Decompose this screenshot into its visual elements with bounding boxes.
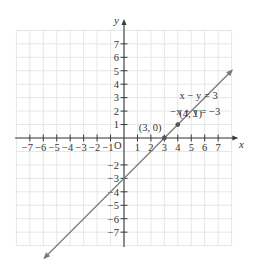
point-label: (3, 0) xyxy=(139,122,162,134)
x-tick-label: 3 xyxy=(162,142,167,153)
origin-label: O xyxy=(114,140,122,151)
equation-2-label: −x + y = −3 xyxy=(170,106,220,117)
y-tick-label: −6 xyxy=(108,214,119,225)
x-tick-label: −5 xyxy=(49,142,60,153)
x-tick-label: 5 xyxy=(189,142,194,153)
y-tick-label: 5 xyxy=(114,66,119,77)
x-axis-label: x xyxy=(238,138,244,150)
axes: −7−6−5−4−3−2−11234567−7−6−5−4−3−21234567… xyxy=(15,14,244,247)
x-tick-label: 1 xyxy=(135,142,140,153)
y-tick-label: 1 xyxy=(114,119,119,130)
y-axis-label: y xyxy=(113,14,119,26)
y-tick-label: 4 xyxy=(114,79,120,90)
y-tick-label: −5 xyxy=(108,200,119,211)
equation-1-label: x − y = 3 xyxy=(180,90,218,101)
x-tick-label: −7 xyxy=(22,142,33,153)
x-axis-arrow-icon xyxy=(232,136,238,141)
x-tick-label: −2 xyxy=(89,142,100,153)
point-marker xyxy=(162,136,167,141)
y-tick-label: −2 xyxy=(108,160,119,171)
x-tick-label: 6 xyxy=(202,142,207,153)
y-tick-label: 2 xyxy=(114,106,119,117)
y-tick-label: −7 xyxy=(108,227,119,238)
y-tick-label: 3 xyxy=(114,92,119,103)
x-tick-label: −4 xyxy=(62,142,74,153)
x-tick-label: −6 xyxy=(35,142,46,153)
x-tick-label: 4 xyxy=(175,142,181,153)
x-tick-label: −3 xyxy=(76,142,87,153)
coordinate-graph: −7−6−5−4−3−2−11234567−7−6−5−4−3−21234567… xyxy=(0,0,256,261)
point-marker xyxy=(175,122,180,127)
x-tick-label: −1 xyxy=(102,142,113,153)
y-tick-label: 7 xyxy=(114,39,119,50)
y-axis-arrow-icon xyxy=(122,19,127,25)
y-tick-label: 6 xyxy=(114,52,119,63)
y-tick-label: −3 xyxy=(108,173,119,184)
x-tick-label: 7 xyxy=(216,142,221,153)
